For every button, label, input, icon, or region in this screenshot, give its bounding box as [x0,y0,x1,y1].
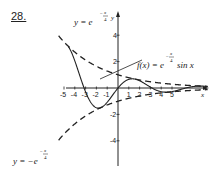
function-graph: -5-4-3-2-112345 42-2-4 x y y = e − x 4 f… [0,0,209,176]
svg-text:−: − [40,149,43,154]
svg-text:x: x [103,10,107,15]
y-axis-arrow-icon [116,11,120,17]
svg-text:x: x [43,148,47,153]
x-axis-label: x [200,91,205,99]
y-tick-label: 4 [113,32,117,39]
svg-text:4: 4 [44,155,47,160]
svg-text:4: 4 [104,17,107,22]
svg-text:4: 4 [170,58,173,63]
x-tick-label: -4 [71,91,77,98]
y-tick-label: -2 [110,111,116,118]
x-tick-label: -1 [103,91,109,98]
svg-text:y = e: y = e [73,17,93,27]
axes: -5-4-3-2-112345 42-2-4 x y [60,11,209,166]
x-tick-label: -5 [60,91,66,98]
upper-envelope-label: y = e − x 4 [73,10,108,27]
svg-text:y = −e: y = −e [12,156,38,166]
function-label: f(x) = e − x 4 sin x [137,51,194,70]
svg-text:−: − [100,11,103,16]
y-axis-label: y [110,14,115,22]
y-tick-label: 2 [113,58,117,65]
lower-envelope-label: y = −e − x 4 [12,148,48,166]
y-tick-label: -4 [110,137,116,144]
svg-text:x: x [169,51,173,56]
svg-text:f(x) = e: f(x) = e [137,60,164,70]
function-curve [68,47,207,109]
x-tick-label: -2 [92,91,98,98]
x-tick-label: 2 [138,91,142,98]
x-tick-label: 1 [127,91,131,98]
svg-text:sin x: sin x [177,60,194,70]
svg-text:−: − [166,54,169,59]
